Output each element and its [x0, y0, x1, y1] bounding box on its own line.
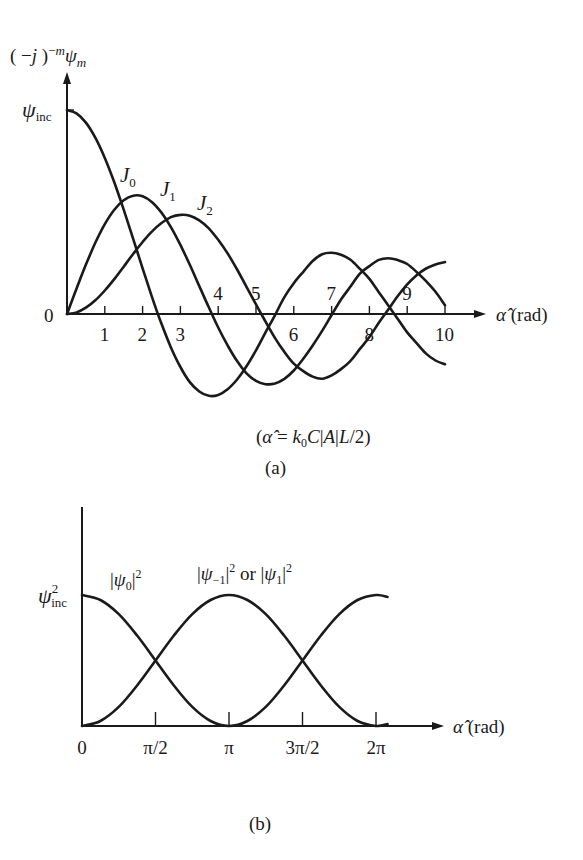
x-tick-label: 6: [289, 324, 299, 345]
y-axis-arrow-icon: [63, 72, 71, 84]
curves-a: [67, 110, 445, 396]
y-axis-label-a: ( −j )−mψm: [10, 43, 86, 70]
origin-label-a: 0: [44, 305, 54, 326]
x-tick-label: π/2: [143, 737, 167, 758]
x-tick-label: 2: [138, 324, 148, 345]
curve-j0: [67, 110, 445, 396]
label-j2: J2: [197, 191, 213, 218]
x-axis-arrow-icon-b: [432, 722, 444, 730]
formula-a: (α̂ = k0C|A|L/2): [256, 426, 371, 450]
label-psi0-squared: |ψ0|2: [110, 567, 141, 593]
psi-inc-label: ψinc: [22, 97, 52, 124]
x-tick-label: 3: [175, 324, 185, 345]
x-tick-label: 10: [435, 324, 454, 345]
x-axis-label-a: α̂ (rad): [496, 304, 548, 326]
curve-psi0-squared: [82, 595, 388, 726]
x-tick-label: 4: [213, 283, 223, 304]
x-tick-label: 2π: [366, 737, 386, 758]
x-tick-label: 0: [77, 737, 87, 758]
x-tick-label: 3π/2: [286, 737, 320, 758]
label-j0: J0: [120, 163, 136, 190]
x-tick-label: 1: [100, 324, 110, 345]
caption-b: (b): [249, 813, 271, 835]
x-ticks-b: 0π/2π3π/22π: [77, 712, 386, 758]
x-tick-label: 5: [251, 283, 261, 304]
panel-a: ( −j )−mψm ψinc 0 12345678910 α̂ (rad) J…: [10, 43, 548, 479]
x-axis-label-b: α̂ (rad): [453, 716, 505, 738]
curve-psi-pm1-squared: [82, 595, 388, 726]
caption-a: (a): [265, 457, 286, 479]
x-tick-label: π: [224, 737, 234, 758]
x-tick-label: 7: [327, 283, 337, 304]
panel-b: ψ2inc 0π/2π3π/22π α̂ (rad) |ψ0|2 |ψ−1|2 …: [38, 507, 505, 835]
x-axis-arrow-icon: [474, 310, 486, 318]
figure-canvas: ( −j )−mψm ψinc 0 12345678910 α̂ (rad) J…: [0, 0, 583, 860]
label-j1: J1: [160, 177, 176, 204]
psi-inc-squared-label: ψ2inc: [38, 581, 67, 610]
label-psi-pm1-squared: |ψ−1|2 or |ψ1|2: [197, 561, 292, 587]
curves-b: [82, 595, 388, 726]
